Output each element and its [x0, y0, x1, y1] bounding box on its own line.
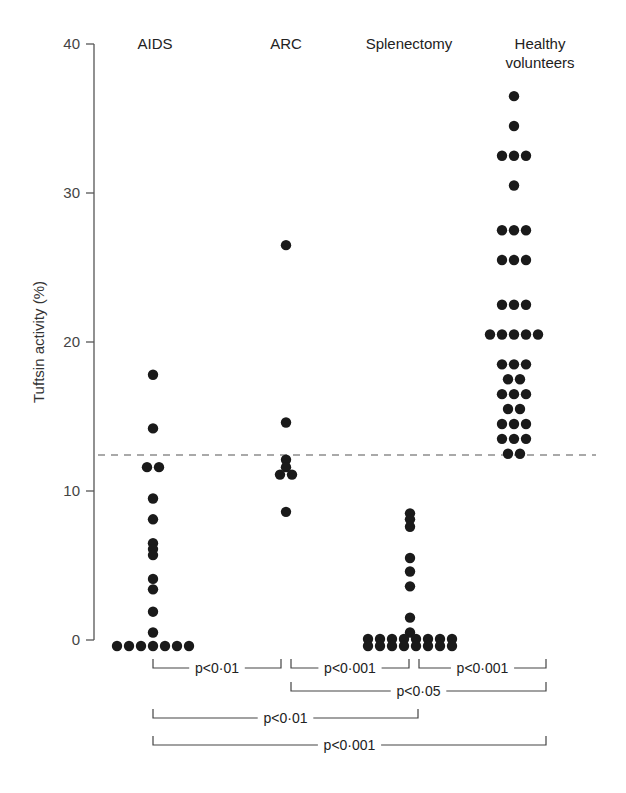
data-point	[148, 606, 158, 616]
bracket-5: p<0·001	[153, 736, 546, 753]
p-value-label: p<0·05	[397, 683, 441, 699]
data-point	[405, 612, 415, 622]
data-point	[375, 641, 385, 651]
data-point	[411, 641, 421, 651]
data-point	[281, 417, 291, 427]
data-point	[503, 449, 513, 459]
data-point	[275, 469, 285, 479]
y-axis-title: Tuftsin activity (%)	[30, 281, 47, 403]
data-point	[435, 641, 445, 651]
data-point	[509, 151, 519, 161]
p-value-label: p<0·001	[457, 660, 509, 676]
significance-brackets: p<0·01p<0·001p<0·001p<0·05p<0·01p<0·001	[153, 659, 546, 753]
data-point	[509, 300, 519, 310]
data-point	[497, 419, 507, 429]
data-point	[148, 514, 158, 524]
data-point	[497, 225, 507, 235]
data-point	[521, 419, 531, 429]
data-point	[287, 469, 297, 479]
data-point	[142, 462, 152, 472]
data-point	[509, 419, 519, 429]
data-point	[533, 329, 543, 339]
data-point	[148, 550, 158, 560]
data-point	[172, 641, 182, 651]
data-point	[447, 641, 457, 651]
group-label-splenectomy: Splenectomy	[366, 35, 453, 52]
bracket-1: p<0·001	[291, 659, 409, 676]
data-point	[387, 641, 397, 651]
data-point	[521, 255, 531, 265]
data-point	[503, 374, 513, 384]
data-point	[521, 434, 531, 444]
p-value-label: p<0·01	[264, 710, 308, 726]
data-point	[423, 641, 433, 651]
data-point	[497, 329, 507, 339]
p-value-label: p<0·001	[324, 737, 376, 753]
data-point	[509, 389, 519, 399]
data-point	[509, 434, 519, 444]
data-point	[509, 91, 519, 101]
data-point	[509, 180, 519, 190]
data-point	[521, 359, 531, 369]
data-point	[160, 641, 170, 651]
group-label-healthy-line1: Healthy	[515, 35, 566, 52]
y-tick-label-30: 30	[63, 184, 80, 201]
y-tick-label-40: 40	[63, 35, 80, 52]
y-tick-label-10: 10	[63, 482, 80, 499]
data-point	[503, 404, 513, 414]
data-point	[521, 329, 531, 339]
bracket-3: p<0·05	[291, 682, 546, 699]
data-point	[405, 581, 415, 591]
data-point	[497, 151, 507, 161]
group-labels: AIDS ARC Splenectomy Healthy volunteers	[137, 35, 574, 71]
data-point	[509, 255, 519, 265]
bracket-2: p<0·001	[419, 659, 546, 676]
data-point	[497, 389, 507, 399]
data-point	[497, 359, 507, 369]
data-point	[497, 434, 507, 444]
bracket-4: p<0·01	[153, 709, 418, 726]
data-point	[485, 329, 495, 339]
data-point	[136, 641, 146, 651]
data-point	[497, 300, 507, 310]
y-tick-label-20: 20	[63, 333, 80, 350]
data-point	[112, 641, 122, 651]
data-point	[405, 553, 415, 563]
data-point	[405, 522, 415, 532]
data-points	[112, 91, 543, 651]
data-point	[124, 641, 134, 651]
group-label-aids: AIDS	[137, 35, 172, 52]
data-point	[148, 574, 158, 584]
data-point	[521, 389, 531, 399]
data-point	[509, 329, 519, 339]
data-point	[281, 240, 291, 250]
data-point	[148, 493, 158, 503]
data-point	[509, 225, 519, 235]
y-tick-label-0: 0	[72, 631, 80, 648]
data-point	[515, 449, 525, 459]
data-point	[521, 300, 531, 310]
data-point	[148, 627, 158, 637]
data-point	[515, 404, 525, 414]
p-value-label: p<0·001	[324, 660, 376, 676]
data-point	[509, 121, 519, 131]
group-label-arc: ARC	[270, 35, 302, 52]
data-point	[405, 566, 415, 576]
data-point	[521, 151, 531, 161]
data-point	[148, 370, 158, 380]
data-point	[363, 641, 373, 651]
data-point	[281, 507, 291, 517]
data-point	[509, 359, 519, 369]
group-label-healthy-line2: volunteers	[505, 54, 574, 71]
data-point	[154, 462, 164, 472]
data-point	[148, 423, 158, 433]
data-point	[184, 641, 194, 651]
y-axis: 40 30 20 10 0 Tuftsin activity (%)	[30, 35, 94, 648]
data-point	[497, 255, 507, 265]
p-value-label: p<0·01	[195, 660, 239, 676]
data-point	[148, 641, 158, 651]
tuftsin-dot-plot: 40 30 20 10 0 Tuftsin activity (%) AIDS …	[0, 0, 626, 793]
data-point	[515, 374, 525, 384]
data-point	[521, 225, 531, 235]
data-point	[148, 584, 158, 594]
